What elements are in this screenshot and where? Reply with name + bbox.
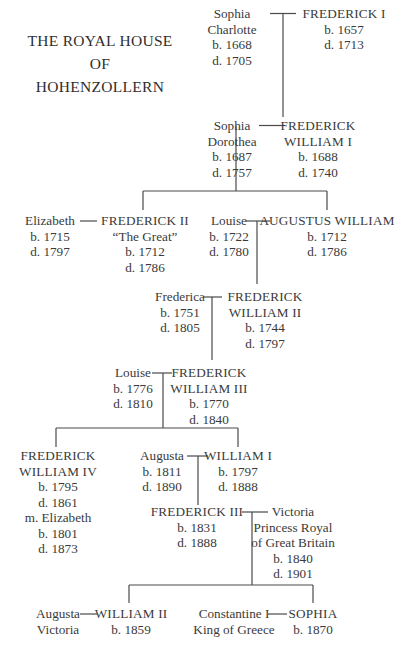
person-augusta-victoria: Augusta Victoria: [36, 606, 80, 637]
person-frederick-i: FREDERICK I b. 1657 d. 1713: [302, 6, 385, 53]
person-william-ii: WILLIAM II b. 1859: [95, 606, 168, 637]
person-frederick-iii: FREDERICK III b. 1831 d. 1888: [151, 504, 243, 551]
person-frederick-ii: FREDERICK II “The Great” b. 1712 d. 1786: [101, 213, 189, 275]
person-louise-1: Louise b. 1722 d. 1780: [209, 213, 249, 260]
person-victoria: Victoria Princess Royal of Great Britain…: [251, 504, 335, 582]
person-frederick-william-iii: FREDERICK WILLIAM III b. 1770 d. 1840: [170, 365, 247, 427]
person-augusta: Augusta b. 1811 d. 1890: [140, 448, 184, 495]
person-sophia-charlotte: Sophia Charlotte b. 1668 d. 1705: [207, 6, 256, 68]
person-frederica: Frederica b. 1751 d. 1805: [155, 289, 205, 336]
person-louise-2: Louise b. 1776 d. 1810: [113, 365, 153, 412]
person-frederick-william-i: FREDERICK WILLIAM I b. 1688 d. 1740: [280, 118, 355, 180]
person-elizabeth: Elizabeth b. 1715 d. 1797: [25, 213, 75, 260]
person-constantine-i: Constantine I King of Greece: [193, 606, 274, 637]
person-sophia: SOPHIA b. 1870: [289, 606, 338, 637]
person-william-i: WILLIAM I b. 1797 d. 1888: [204, 448, 272, 495]
person-frederick-william-ii: FREDERICK WILLIAM II b. 1744 d. 1797: [227, 289, 302, 351]
family-tree-connectors: [0, 0, 410, 665]
person-sophia-dorothea: Sophia Dorothea b. 1687 d. 1757: [207, 118, 256, 180]
person-augustus-william: AUGUSTUS WILLIAM b. 1712 d. 1786: [259, 213, 394, 260]
person-frederick-william-iv: FREDERICK WILLIAM IV b. 1795 d. 1861 m. …: [19, 448, 97, 557]
